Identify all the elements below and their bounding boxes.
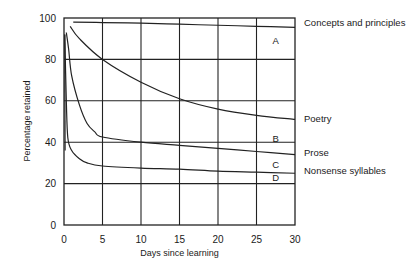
x-tick-label: 5 — [100, 234, 106, 245]
y-tick-label: 0 — [50, 220, 56, 231]
x-tick-label: 30 — [289, 234, 301, 245]
series-label: Nonsense syllables — [304, 165, 386, 176]
x-tick-label: 10 — [135, 234, 147, 245]
y-tick-label: 20 — [45, 178, 57, 189]
series-line-a — [73, 22, 295, 27]
series-label: Prose — [304, 147, 329, 158]
series-label: Poetry — [304, 113, 332, 124]
curve-letter-a: A — [273, 35, 280, 46]
series-line-b — [70, 26, 295, 119]
x-axis-ticks: 051015202530 — [61, 234, 301, 245]
retention-chart: 051015202530 020406080100 ABCD Concepts … — [0, 0, 418, 274]
x-tick-label: 25 — [251, 234, 263, 245]
x-axis-title: Days since learning — [140, 248, 219, 258]
y-axis-title: Percentage retained — [22, 80, 32, 161]
series-label: Concepts and principles — [304, 17, 406, 28]
curve-letter-d: D — [272, 172, 279, 183]
y-axis-ticks: 020406080100 — [39, 13, 56, 231]
y-tick-label: 80 — [45, 54, 57, 65]
x-tick-label: 15 — [174, 234, 186, 245]
x-tick-label: 20 — [212, 234, 224, 245]
curve-letters: ABCD — [272, 35, 279, 183]
y-tick-label: 100 — [39, 13, 56, 24]
y-tick-label: 40 — [45, 137, 57, 148]
series-line-c — [66, 32, 295, 154]
curve-letter-c: C — [272, 159, 279, 170]
curve-letter-b: B — [273, 133, 279, 144]
y-tick-label: 60 — [45, 95, 57, 106]
x-tick-label: 0 — [61, 234, 67, 245]
series-labels: Concepts and principlesPoetryProseNonsen… — [304, 17, 406, 176]
grid-lines — [64, 18, 295, 225]
